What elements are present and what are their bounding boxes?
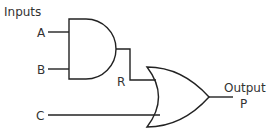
logic-circuit-diagram: Inputs A B R C Output P bbox=[0, 0, 272, 136]
inputs-heading: Inputs bbox=[4, 5, 41, 19]
output-heading: Output bbox=[224, 81, 266, 95]
or-gate bbox=[147, 67, 209, 127]
label-r: R bbox=[117, 75, 125, 89]
label-a: A bbox=[37, 26, 46, 40]
label-b: B bbox=[37, 63, 45, 77]
label-p: P bbox=[240, 97, 247, 111]
and-gate bbox=[69, 19, 116, 79]
label-c: C bbox=[36, 109, 44, 123]
